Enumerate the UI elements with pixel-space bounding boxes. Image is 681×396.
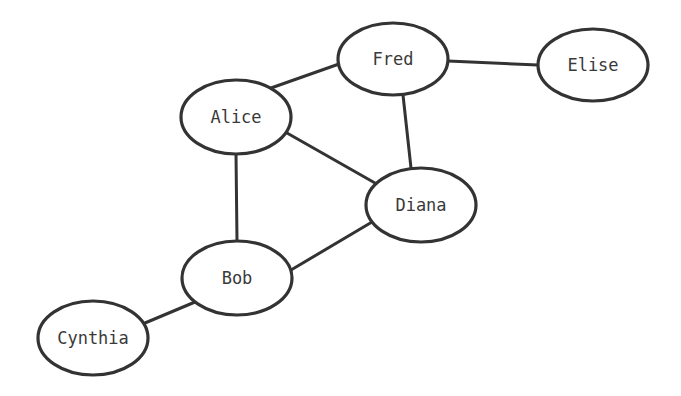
node-diana: Diana <box>366 168 476 242</box>
node-label: Alice <box>210 107 261 127</box>
edge-cynthia-bob <box>145 302 195 323</box>
graph-diagram: FredEliseAliceDianaBobCynthia <box>0 0 681 396</box>
node-cynthia: Cynthia <box>38 301 148 375</box>
edge-alice-bob <box>236 154 237 241</box>
edge-fred-diana <box>403 95 411 168</box>
edge-fred-elise <box>448 61 538 65</box>
node-fred: Fred <box>338 23 448 95</box>
node-bob: Bob <box>182 241 292 315</box>
graph-svg: FredEliseAliceDianaBobCynthia <box>0 0 681 396</box>
nodes-layer: FredEliseAliceDianaBobCynthia <box>38 23 648 375</box>
node-label: Cynthia <box>57 328 129 348</box>
edge-alice-diana <box>287 133 375 183</box>
node-elise: Elise <box>538 29 648 101</box>
node-alice: Alice <box>181 80 291 154</box>
node-label: Bob <box>222 268 253 288</box>
node-label: Fred <box>373 49 414 69</box>
edge-alice-fred <box>271 64 339 88</box>
edge-bob-diana <box>291 222 372 270</box>
node-label: Diana <box>395 195 446 215</box>
node-label: Elise <box>567 55 618 75</box>
